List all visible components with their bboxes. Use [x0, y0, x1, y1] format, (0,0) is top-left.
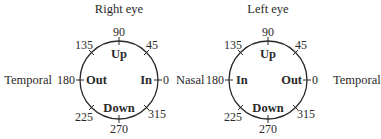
side-label-temporal: Temporal — [333, 73, 381, 87]
angle-0: 0 — [163, 73, 169, 87]
angle-180: 180 — [206, 73, 224, 87]
direction-up: Up — [260, 47, 276, 61]
left-eye-diagram: Left eye 90 135 45 180 0 225 315 270 Up … — [206, 2, 381, 136]
right-eye-diagram: Right eye 90 135 45 180 0 225 315 270 Up… — [4, 2, 169, 136]
angle-225: 225 — [224, 110, 242, 124]
angle-45: 45 — [146, 38, 158, 52]
direction-in: In — [236, 73, 248, 87]
direction-in: In — [140, 73, 152, 87]
direction-up: Up — [111, 47, 127, 61]
left-eye-title: Left eye — [247, 2, 289, 16]
angle-135: 135 — [75, 38, 93, 52]
angle-0: 0 — [312, 73, 318, 87]
angle-270: 270 — [259, 122, 277, 136]
angle-315: 315 — [148, 107, 166, 121]
angle-225: 225 — [75, 110, 93, 124]
angle-45: 45 — [295, 38, 307, 52]
direction-out: Out — [86, 73, 108, 87]
angle-315: 315 — [297, 107, 315, 121]
angle-270: 270 — [110, 122, 128, 136]
right-eye-title: Right eye — [95, 2, 144, 16]
side-label-temporal: Temporal — [4, 73, 52, 87]
angle-90: 90 — [262, 25, 274, 39]
direction-out: Out — [281, 73, 303, 87]
eye-movement-diagrams: Right eye 90 135 45 180 0 225 315 270 Up… — [0, 0, 381, 139]
angle-180: 180 — [57, 73, 75, 87]
angle-90: 90 — [113, 25, 125, 39]
direction-down: Down — [103, 101, 134, 115]
side-label-nasal: Nasal — [176, 73, 205, 87]
angle-135: 135 — [224, 38, 242, 52]
direction-down: Down — [252, 101, 283, 115]
